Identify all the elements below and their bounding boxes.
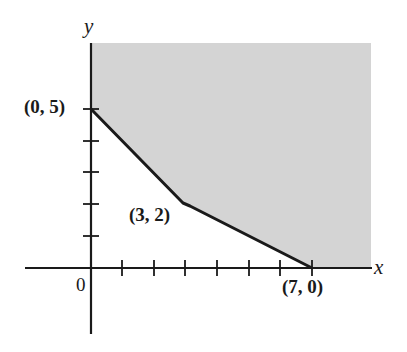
point-label-0-5: (0, 5) (24, 96, 65, 118)
x-axis-label: x (374, 255, 383, 280)
chart-canvas (0, 0, 407, 352)
point-label-7-0: (7, 0) (282, 276, 323, 298)
origin-label: 0 (76, 274, 86, 296)
point-label-3-2: (3, 2) (129, 204, 170, 226)
y-axis-label: y (84, 14, 93, 39)
shaded-region (91, 43, 371, 268)
